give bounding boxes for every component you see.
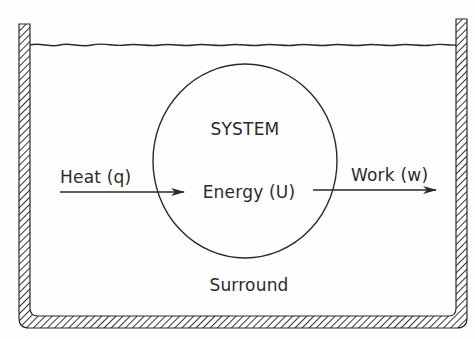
liquid-surface <box>30 44 456 46</box>
system-label: SYSTEM <box>211 119 280 139</box>
diagram-canvas: SYSTEM Energy (U) Heat (q) Work (w) Surr… <box>0 0 475 339</box>
heat-label: Heat (q) <box>60 167 131 187</box>
energy-label: Energy (U) <box>203 182 296 202</box>
system-circle <box>153 64 337 258</box>
work-label: Work (w) <box>351 165 428 185</box>
surround-label: Surround <box>209 275 288 295</box>
